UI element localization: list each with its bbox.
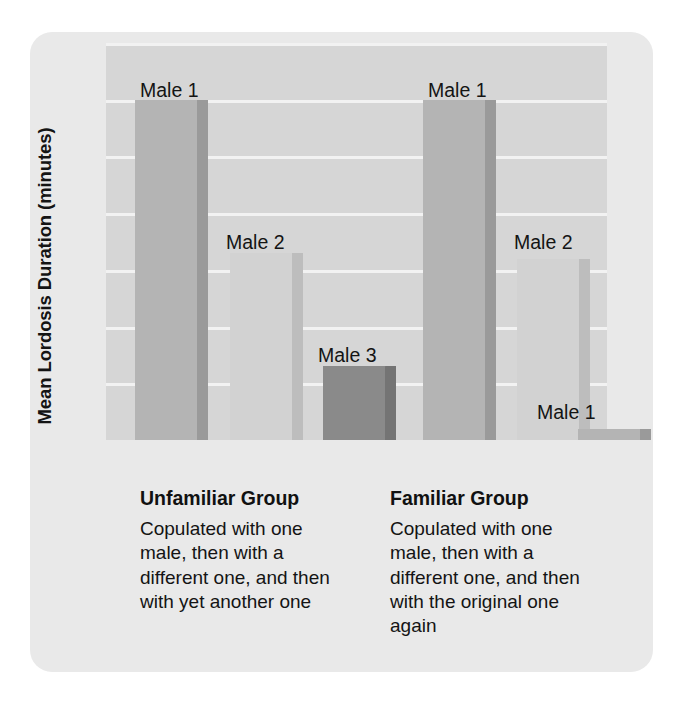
plot-area: Male 1 Male 2 Male 3 Male 1 Male 2 Male …	[106, 43, 607, 440]
caption-familiar: Familiar Group Copulated with one male, …	[390, 487, 595, 639]
caption-unfamiliar: Unfamiliar Group Copulated with one male…	[140, 487, 345, 614]
caption-unfamiliar-title: Unfamiliar Group	[140, 487, 345, 510]
y-tick-labels: 35 30 25 20 15 10 5	[106, 43, 607, 440]
y-axis-title: Mean Lordosis Duration (minutes)	[34, 81, 56, 471]
caption-familiar-body: Copulated with one male, then with a dif…	[390, 517, 595, 639]
caption-unfamiliar-body: Copulated with one male, then with a dif…	[140, 517, 345, 614]
caption-familiar-title: Familiar Group	[390, 487, 595, 510]
figure-root: Mean Lordosis Duration (minutes)	[0, 0, 674, 702]
bar-side	[640, 429, 651, 440]
